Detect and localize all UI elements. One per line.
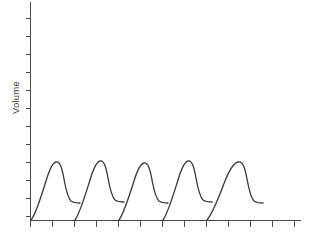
trace-cycle-2 [75,161,124,220]
trace-cycle-3 [119,163,168,220]
volume-trace-plot [0,0,309,242]
trace-cycle-4 [163,161,212,220]
trace-cycle-5 [207,162,263,220]
trace-cycle-1 [31,162,80,220]
chart-container: Volume [0,0,309,242]
x-axis-ticks [31,221,295,227]
y-axis-label: Volume [10,68,21,128]
